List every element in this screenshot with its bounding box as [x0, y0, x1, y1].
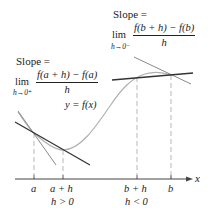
tick-label-b-plus-h: b + h: [124, 184, 147, 195]
left-lim-sub: h→0⁺: [13, 89, 32, 97]
left-numerator: f(a + h) − f(a): [36, 70, 98, 83]
left-slope-title: Slope =: [16, 56, 50, 67]
right-denominator: h: [162, 36, 167, 49]
right-lim: lim: [112, 30, 126, 41]
right-slope-title: Slope =: [113, 9, 147, 20]
left-tangent-line: [18, 111, 56, 165]
right-tangent-line: [134, 57, 191, 84]
axis-label-x: x: [195, 173, 200, 184]
tick-sublabel-h-negative: h < 0: [125, 197, 148, 208]
left-fraction: f(a + h) − f(a) h: [36, 70, 98, 95]
tick-label-a-plus-h: a + h: [50, 184, 73, 195]
tick-sublabel-h-positive: h > 0: [51, 197, 74, 208]
right-fraction: f(b + h) − f(b) h: [133, 23, 195, 48]
right-numerator: f(b + h) − f(b): [133, 23, 195, 36]
left-lim: lim: [15, 77, 29, 88]
tick-label-b: b: [168, 184, 173, 195]
right-lim-sub: h→0⁻: [111, 43, 130, 51]
left-denominator: h: [65, 83, 70, 96]
tick-label-a: a: [31, 184, 36, 195]
x-axis-arrow-icon: [186, 177, 193, 182]
curve-label: y = f(x): [65, 100, 97, 111]
